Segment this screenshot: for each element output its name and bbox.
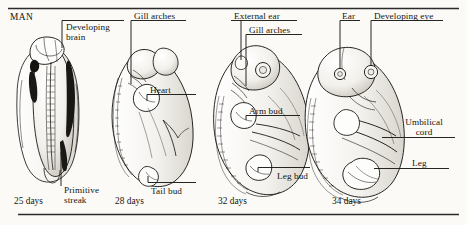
label-gill-arches-32: Gill arches (249, 25, 290, 35)
label-external-ear: External ear (234, 11, 280, 21)
figure-heading: MAN (10, 12, 33, 22)
label-primitive-streak-line1: Primitive (64, 185, 99, 195)
label-arm-bud: Arm bud (249, 106, 283, 116)
label-leg: Leg (412, 158, 427, 168)
caption-34-days: 34 days (332, 196, 361, 206)
caption-32-days: 32 days (218, 196, 247, 206)
label-umbilical-cord-line1: Umbilical (394, 117, 454, 127)
label-gill-arches-28: Gill arches (134, 11, 175, 21)
label-tail-bud: Tail bud (151, 186, 182, 196)
caption-28-days: 28 days (115, 196, 144, 206)
label-leg-bud: Leg bud (277, 171, 308, 181)
caption-25-days: 25 days (14, 196, 43, 206)
label-umbilical-cord-line2: cord (394, 127, 454, 137)
label-heart: Heart (150, 85, 171, 95)
leader-developing-eye (371, 21, 443, 67)
label-ear: Ear (342, 11, 355, 21)
embryo-34-days (305, 47, 404, 202)
embryo-25-days (17, 37, 79, 183)
embryo-28-days (112, 48, 193, 186)
embryo-development-figure: MAN Developing brain Primitive streak Gi… (0, 0, 467, 225)
label-developing-brain-line2: brain (66, 32, 85, 42)
label-developing-eye: Developing eye (374, 11, 433, 21)
label-primitive-streak-line2: streak (64, 195, 87, 205)
label-developing-brain-line1: Developing (66, 22, 110, 32)
